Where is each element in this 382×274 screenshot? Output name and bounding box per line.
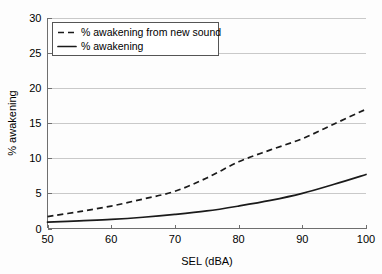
x-axis-title: SEL (dBA) [181,255,233,267]
series-group [48,109,367,222]
y-tick-label: 30 [29,12,41,24]
x-tick-label: 80 [232,233,244,245]
series-line-awakening-from-new-sound [48,109,367,216]
y-tick-label: 25 [29,47,41,59]
chart-legend: % awakening from new sound % awakening [53,23,222,56]
x-tick-label: 50 [41,233,53,245]
series-line-awakening [48,174,367,222]
x-tick-label: 100 [357,233,375,245]
y-axis-title: % awakening [6,90,18,155]
line-chart: 5060708090100 051015202530 SEL (dBA) % a… [0,0,382,274]
y-tick-label: 0 [35,223,41,235]
x-tick-label-group: 5060708090100 [41,233,375,245]
x-tick-label: 60 [105,233,117,245]
x-tick-label: 90 [296,233,308,245]
y-tick-label-group: 051015202530 [29,12,41,235]
y-tick-label: 5 [35,187,41,199]
chart-container: 5060708090100 051015202530 SEL (dBA) % a… [0,0,382,274]
y-tick-label: 20 [29,82,41,94]
legend-label-0: % awakening from new sound [81,26,221,38]
y-tick-label: 10 [29,152,41,164]
x-tick-label: 70 [169,233,181,245]
y-tick-label: 15 [29,117,41,129]
legend-label-1: % awakening [81,40,144,52]
